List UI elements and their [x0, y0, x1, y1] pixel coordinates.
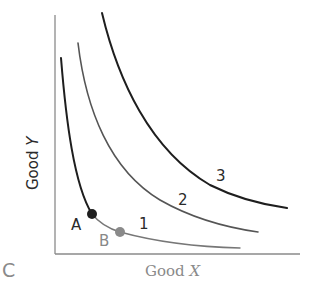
- x-axis-label-prefix: Good: [145, 262, 189, 280]
- point-a-marker: [87, 209, 97, 219]
- curve-3-label: 3: [216, 167, 226, 185]
- y-axis-label: Good Y: [24, 135, 42, 190]
- indifference-curve-3: [102, 13, 287, 208]
- panel-label: C: [2, 259, 15, 281]
- indifference-curve-1-upper: [61, 58, 92, 214]
- point-a-label: A: [71, 216, 82, 234]
- y-axis-label-prefix: Good: [24, 146, 42, 190]
- y-axis-label-var: Y: [24, 135, 42, 146]
- point-b-marker: [115, 227, 125, 237]
- indifference-curve-2: [78, 43, 258, 232]
- indifference-curve-1-lower: [92, 214, 240, 248]
- x-axis-label: Good X: [145, 262, 201, 280]
- indifference-curve-diagram: 3 2 1 A B Good Y Good X C: [0, 0, 310, 297]
- point-b-label: B: [99, 232, 109, 250]
- curve-1-label: 1: [139, 215, 149, 233]
- x-axis-label-var: X: [188, 262, 201, 280]
- curve-2-label: 2: [178, 191, 188, 209]
